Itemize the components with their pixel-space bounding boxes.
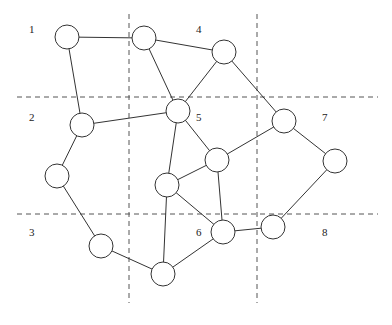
- graph-node-F: [272, 109, 296, 133]
- graph-node-N: [151, 262, 175, 286]
- graph-diagram: 12345678: [0, 0, 392, 325]
- graph-node-I: [323, 149, 347, 173]
- graph-node-D: [166, 99, 190, 123]
- graph-node-C: [212, 40, 236, 64]
- edge-A-E: [67, 37, 82, 125]
- graph-node-K: [89, 234, 113, 258]
- region-label-8: 8: [322, 226, 328, 238]
- graph-node-H: [205, 148, 229, 172]
- region-label-2: 2: [29, 111, 35, 123]
- graph-node-J: [155, 173, 179, 197]
- region-label-4: 4: [196, 23, 202, 35]
- graph-node-M: [261, 215, 285, 239]
- region-label-6: 6: [196, 226, 202, 238]
- region-label-7: 7: [322, 111, 328, 123]
- graph-node-G: [45, 164, 69, 188]
- nodes: [45, 25, 347, 286]
- region-label-3: 3: [29, 226, 35, 238]
- graph-node-E: [70, 113, 94, 137]
- graph-node-B: [132, 26, 156, 50]
- graph-node-L: [211, 220, 235, 244]
- edge-D-E: [82, 111, 178, 125]
- region-label-5: 5: [196, 111, 202, 123]
- edge-N-J: [163, 185, 167, 274]
- edge-I-M: [273, 161, 335, 227]
- edge-C-F: [224, 52, 284, 121]
- region-label-1: 1: [29, 23, 35, 35]
- graph-node-A: [55, 25, 79, 49]
